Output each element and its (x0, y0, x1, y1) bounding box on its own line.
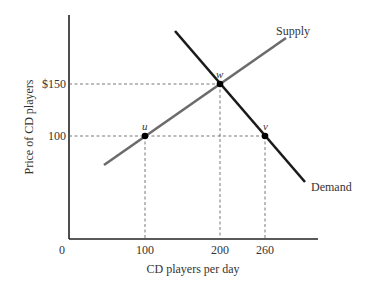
point-w-label: w (216, 68, 224, 80)
y-tick-100: 100 (48, 129, 66, 143)
point-w (217, 81, 224, 88)
point-v-label: v (263, 120, 268, 132)
x-tick-100: 100 (136, 243, 154, 257)
x-axis-title: CD players per day (147, 262, 240, 276)
supply-label: Supply (276, 24, 310, 38)
x-tick-200: 200 (211, 243, 229, 257)
x-tick-0: 0 (59, 243, 65, 257)
supply-curve (104, 38, 286, 165)
reference-lines (69, 84, 265, 239)
supply-demand-chart: u w v Supply Demand $150 100 0 100 200 2… (0, 0, 365, 290)
point-v (262, 133, 269, 140)
demand-label: Demand (311, 180, 352, 194)
point-u (142, 133, 149, 140)
x-tick-260: 260 (256, 243, 274, 257)
y-axis-title: Price of CD players (22, 79, 36, 174)
y-tick-150: $150 (42, 77, 66, 91)
point-u-label: u (142, 120, 148, 132)
demand-curve (175, 31, 305, 182)
